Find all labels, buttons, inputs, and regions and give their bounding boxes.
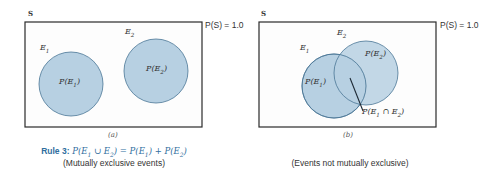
note-a: (Mutually exclusive events) <box>0 158 228 168</box>
event-e2-probability-b: P(E2) <box>365 49 386 60</box>
rule-3-formula: Rule 3: P(E1 ∪ E2) = P(E1) + P(E2) <box>0 146 228 158</box>
intersection-probability-b: P(E1 ∩ E2) <box>362 107 404 118</box>
event-e1-label-a: E1 <box>40 43 49 54</box>
event-e1-probability-a: P(E1) <box>59 77 80 88</box>
note-b: (Events not mutually exclusive) <box>240 158 460 168</box>
rule-keyword: Rule 3: <box>41 146 69 156</box>
event-e2-label-a: E2 <box>125 27 134 38</box>
event-e1-probability-b: P(E1) <box>305 77 326 88</box>
caption-b: (b) <box>343 131 353 139</box>
event-e2-probability-a: P(E2) <box>146 64 167 75</box>
space-probability-b: P(S) = 1.0 <box>440 20 479 30</box>
space-label-a: S <box>28 9 33 18</box>
caption-a: (a) <box>108 131 118 139</box>
space-label-b: S <box>261 9 266 18</box>
space-probability-a: P(S) = 1.0 <box>205 20 244 30</box>
event-e2-label-b: E2 <box>337 28 346 39</box>
event-e1-label-b: E1 <box>300 43 309 54</box>
rule-formula: P(E1 ∪ E2) = P(E1) + P(E2) <box>72 146 187 156</box>
